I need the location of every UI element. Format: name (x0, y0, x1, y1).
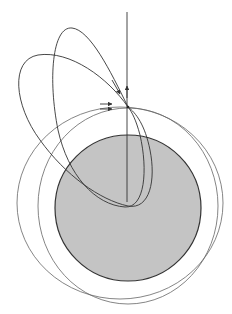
orbit-diagram (0, 0, 232, 314)
orbit-diagram-svg (0, 0, 232, 314)
burn-point (127, 106, 130, 109)
planet (55, 135, 201, 281)
